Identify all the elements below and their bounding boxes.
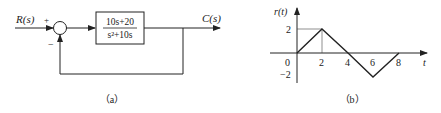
x-tick-8: 8 [396,57,401,68]
output-label: C(s) [202,12,221,25]
plus-sign: + [44,15,49,25]
caption-a: （a） [100,94,124,105]
x-tick-0: 0 [285,57,290,68]
denominator: s²+10s [107,30,132,40]
summing-junction [54,22,67,35]
x-axis-label: t [423,57,426,68]
numerator: 10s+20 [106,17,134,27]
y-axis-label: r(t) [274,6,288,18]
block-diagram: R(s) + − 10s+20 s²+10s C(s) （a） [15,12,221,105]
y-tick-neg2: −2 [280,69,291,80]
y-tick-2: 2 [286,24,291,35]
input-label: R(s) [15,13,35,26]
figure-canvas: R(s) + − 10s+20 s²+10s C(s) （a） r(t) t 0… [0,0,441,113]
signal-plot: r(t) t 0 2 4 6 8 2 −2 （b） [270,6,427,105]
x-tick-6: 6 [370,57,375,68]
x-tick-2: 2 [319,57,324,68]
caption-b: （b） [340,94,365,105]
minus-sign: − [48,39,54,50]
x-tick-4: 4 [345,57,350,68]
